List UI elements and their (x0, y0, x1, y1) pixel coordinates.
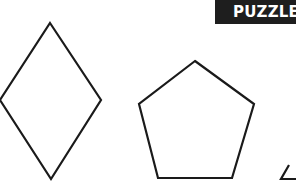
shapes-canvas (0, 0, 296, 188)
pentagon-shape (139, 61, 254, 178)
diamond-shape (0, 23, 101, 179)
triangle-shape-partial (281, 165, 296, 179)
